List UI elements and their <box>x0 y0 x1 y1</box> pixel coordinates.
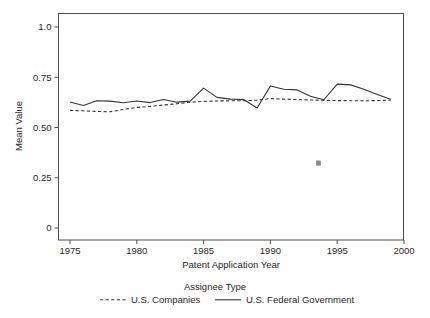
x-axis-title: Patent Application Year <box>182 259 280 270</box>
data-series-lines <box>70 84 391 112</box>
series-line-us-companies <box>70 99 391 112</box>
chart-figure: 00.250.500.751.0 19751980198519901995200… <box>0 0 430 318</box>
x-tick-label-1985: 1985 <box>193 245 214 256</box>
legend-label-us-federal-government: U.S. Federal Government <box>246 294 355 305</box>
legend: U.S. CompaniesU.S. Federal Government <box>100 294 355 305</box>
x-tick-label-1990: 1990 <box>260 245 281 256</box>
line-chart-svg: 00.250.500.751.0 19751980198519901995200… <box>0 0 430 318</box>
y-tick-label-0.50: 0.50 <box>33 122 52 133</box>
data-markers <box>316 161 320 165</box>
y-axis-title: Mean Value <box>13 101 24 151</box>
x-axis-ticks <box>70 240 404 244</box>
y-tick-label-0.25: 0.25 <box>33 172 52 183</box>
y-tick-label-0.75: 0.75 <box>33 72 52 83</box>
outlier-point <box>316 161 320 165</box>
x-tick-label-2000: 2000 <box>393 245 414 256</box>
y-axis-tick-labels: 00.250.500.751.0 <box>33 21 52 233</box>
legend-label-us-companies: U.S. Companies <box>131 294 200 305</box>
x-axis-tick-labels: 197519801985199019952000 <box>59 245 414 256</box>
x-tick-label-1980: 1980 <box>126 245 147 256</box>
y-tick-label-0: 0 <box>46 222 51 233</box>
y-axis-ticks <box>55 27 59 228</box>
legend-title: Assignee Type <box>184 281 246 292</box>
series-line-us-federal-government <box>70 84 391 108</box>
x-tick-label-1995: 1995 <box>327 245 348 256</box>
x-tick-label-1975: 1975 <box>59 245 80 256</box>
y-tick-label-1.0: 1.0 <box>38 21 51 32</box>
plot-frame <box>59 14 404 241</box>
